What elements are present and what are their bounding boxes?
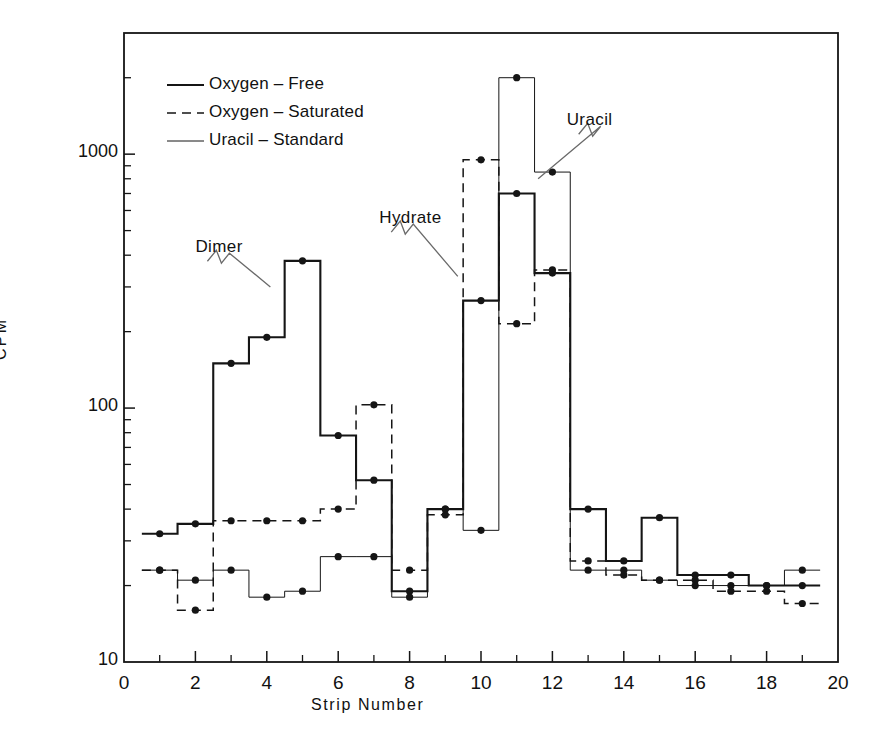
y-axis-title: CPM — [0, 318, 10, 360]
legend-label: Oxygen – Saturated — [209, 102, 364, 122]
x-tick-label: 18 — [745, 672, 789, 694]
annotation-label: Uracil — [567, 110, 613, 130]
data-point — [335, 506, 342, 513]
data-point — [335, 553, 342, 560]
data-point — [477, 297, 484, 304]
data-point — [228, 360, 235, 367]
data-point — [192, 607, 199, 614]
data-point — [477, 156, 484, 163]
figure-root: Strip Number CPM Oxygen – FreeOxygen – S… — [0, 0, 894, 750]
y-tick-label: 10 — [56, 649, 118, 670]
x-tick-label: 6 — [316, 672, 360, 694]
data-point — [656, 514, 663, 521]
y-tick-label: 100 — [56, 395, 118, 416]
x-axis-title: Strip Number — [311, 696, 424, 714]
data-point — [585, 567, 592, 574]
data-point — [299, 257, 306, 264]
data-point — [513, 190, 520, 197]
x-tick-label: 20 — [816, 672, 860, 694]
x-tick-label: 14 — [602, 672, 646, 694]
series-line-uracil-standard — [142, 78, 820, 597]
data-point — [299, 588, 306, 595]
data-point — [727, 582, 734, 589]
legend-label: Oxygen – Free — [209, 74, 324, 94]
annotation-leader — [538, 123, 601, 179]
x-tick-label: 16 — [673, 672, 717, 694]
data-point — [799, 582, 806, 589]
data-point — [620, 557, 627, 564]
data-point — [585, 557, 592, 564]
series-line-oxygen-saturated — [142, 160, 820, 610]
data-point — [263, 594, 270, 601]
data-point — [799, 567, 806, 574]
data-point — [549, 266, 556, 273]
annotation-leader — [391, 221, 458, 276]
data-point — [513, 320, 520, 327]
data-point — [406, 567, 413, 574]
data-point — [477, 527, 484, 534]
data-point — [763, 582, 770, 589]
data-point — [156, 567, 163, 574]
y-tick-label: 1000 — [56, 141, 118, 162]
x-tick-label: 4 — [245, 672, 289, 694]
data-point — [620, 567, 627, 574]
data-point — [656, 577, 663, 584]
data-markers — [156, 74, 806, 614]
data-point — [192, 520, 199, 527]
data-point — [799, 600, 806, 607]
chart-canvas — [0, 0, 894, 750]
data-point — [335, 432, 342, 439]
data-point — [228, 517, 235, 524]
x-tick-label: 12 — [530, 672, 574, 694]
data-point — [370, 477, 377, 484]
x-tick-label: 8 — [388, 672, 432, 694]
data-point — [585, 506, 592, 513]
data-point — [370, 553, 377, 560]
annotation-label: Dimer — [195, 237, 242, 257]
data-point — [727, 571, 734, 578]
legend-swatches — [167, 85, 204, 141]
data-point — [263, 334, 270, 341]
x-tick-label: 10 — [459, 672, 503, 694]
data-point — [442, 506, 449, 513]
data-point — [192, 577, 199, 584]
data-point — [299, 517, 306, 524]
annotation-label: Hydrate — [379, 208, 441, 228]
data-point — [692, 582, 699, 589]
data-point — [513, 74, 520, 81]
data-point — [228, 567, 235, 574]
legend-label: Uracil – Standard — [209, 130, 344, 150]
data-point — [406, 594, 413, 601]
data-point — [263, 517, 270, 524]
x-tick-label: 2 — [173, 672, 217, 694]
data-point — [156, 530, 163, 537]
x-tick-label: 0 — [102, 672, 146, 694]
data-point — [370, 401, 377, 408]
